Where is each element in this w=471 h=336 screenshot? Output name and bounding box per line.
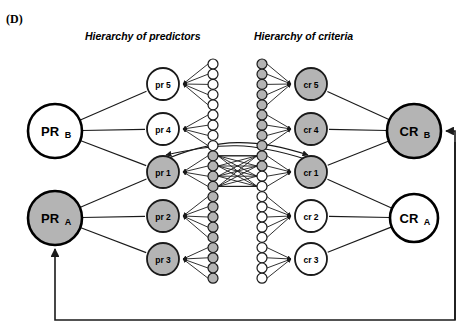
predictor-item-node-10: [208, 151, 218, 161]
edge-item-to-cr2: [267, 207, 291, 216]
figure-panel-d: (D) Hierarchy of predictors Hierarchy of…: [0, 0, 471, 336]
predictor-item-node-7: [208, 120, 218, 130]
edge-item-to-cr2: [267, 216, 291, 227]
edge-item-to-pr3: [183, 259, 208, 268]
facet-node-cr2: cr 2: [295, 200, 327, 232]
edge-item-to-cr3: [267, 259, 291, 278]
edge-item-to-pr2: [183, 207, 208, 216]
edge-PRA-pr2: [82, 216, 145, 217]
construct-node-CR_B-subscript: B: [424, 130, 431, 140]
edge-item-to-cr2: [267, 197, 291, 216]
construct-node-PR_A-label: PR: [41, 211, 60, 226]
edges-criteria-items-to-facets: [267, 64, 291, 278]
construct-node-PR_B: PRB: [28, 104, 82, 158]
edge-item-to-pr2: [183, 216, 208, 237]
construct-node-CR_B: CRB: [387, 104, 441, 158]
predictor-item-node-16: [208, 212, 218, 222]
edge-item-to-pr5: [183, 84, 208, 105]
predictor-item-node-20: [208, 253, 218, 263]
edge-PRA-pr1: [80, 179, 147, 207]
criteria-item-node-13: [257, 181, 267, 191]
predictor-item-node-18: [208, 232, 218, 242]
predictor-item-node-19: [208, 243, 218, 253]
criteria-item-node-16: [257, 212, 267, 222]
edge-CRA-cr1: [327, 179, 392, 208]
predictor-item-node-6: [208, 110, 218, 120]
edge-PRB-pr1: [80, 141, 146, 166]
edge-item-to-pr3: [183, 259, 208, 278]
predictor-item-node-11: [208, 161, 218, 171]
predictor-item-node-21: [208, 263, 218, 273]
predictor-item-node-1: [208, 59, 218, 69]
construct-node-CR_A-subscript: A: [424, 217, 431, 227]
edge-item-to-cr5: [267, 84, 291, 95]
edge-PRB-pr5: [80, 91, 147, 120]
predictor-item-node-12: [208, 171, 218, 181]
facet-node-pr1-label: pr 1: [155, 168, 171, 178]
criteria-item-node-14: [257, 192, 267, 202]
facet-node-cr2-label: cr 2: [303, 212, 318, 222]
edge-item-to-cr3: [267, 259, 291, 268]
criteria-item-node-15: [257, 202, 267, 212]
predictor-item-node-9: [208, 141, 218, 151]
edge-item-to-cr3: [267, 248, 291, 259]
predictor-item-node-22: [208, 273, 218, 283]
predictor-item-node-2: [208, 69, 218, 79]
edges-item-cross-links: [218, 156, 257, 187]
facet-node-pr2: pr 2: [147, 200, 179, 232]
edge-item-to-pr4: [183, 129, 208, 146]
edge-item-to-pr5: [183, 74, 208, 84]
facet-node-pr4-label: pr 4: [155, 125, 171, 135]
facet-node-cr4: cr 4: [295, 113, 327, 145]
criteria-item-node-20: [257, 253, 267, 263]
construct-node-PR_B-label: PR: [41, 124, 60, 139]
facet-node-cr4-label: cr 4: [303, 125, 318, 135]
predictor-item-node-13: [208, 181, 218, 191]
edge-item-to-cr2: [267, 216, 291, 237]
criteria-item-node-21: [257, 263, 267, 273]
feedback-loop-to-CRB: [446, 131, 455, 320]
edge-CRB-cr4: [329, 129, 387, 130]
facet-node-pr1: pr 1: [147, 156, 179, 188]
facet-node-cr3-label: cr 3: [303, 255, 318, 265]
edge-item-to-cr5: [267, 84, 291, 105]
criteria-item-node-4: [257, 90, 267, 100]
edge-item-to-cr5: [267, 74, 291, 84]
edge-item-to-pr1: [183, 156, 208, 172]
edge-item-to-pr2: [183, 216, 208, 227]
construct-node-PR_A: PRA: [28, 191, 82, 245]
facet-node-cr3: cr 3: [295, 243, 327, 275]
facet-node-cr5: cr 5: [295, 68, 327, 100]
facet-node-pr3-label: pr 3: [155, 255, 171, 265]
construct-node-CR_B-label: CR: [400, 124, 419, 139]
construct-node-CR_A: CRA: [390, 194, 438, 242]
edge-item-to-cr1: [267, 166, 291, 172]
edge-PRA-pr3: [80, 228, 146, 253]
edge-item-to-cr1: [267, 156, 291, 172]
predictor-item-node-4: [208, 90, 218, 100]
edge-CRA-cr2: [329, 216, 390, 217]
construct-node-PR_A-subscript: A: [65, 217, 72, 227]
criteria-item-node-3: [257, 79, 267, 89]
criteria-item-node-8: [257, 130, 267, 140]
predictor-item-node-15: [208, 202, 218, 212]
facet-node-pr4: pr 4: [147, 113, 179, 145]
edge-CRB-cr5: [327, 91, 389, 119]
facet-node-pr2-label: pr 2: [155, 212, 171, 222]
predictor-item-node-3: [208, 79, 218, 89]
predictor-item-node-14: [208, 192, 218, 202]
criteria-item-node-19: [257, 243, 267, 253]
facet-node-cr1: cr 1: [295, 156, 327, 188]
edge-CRA-cr3: [328, 227, 392, 252]
edge-item-to-cr3: [267, 258, 291, 259]
criteria-item-node-6: [257, 110, 267, 120]
edge-item-to-pr1: [183, 166, 208, 172]
edge-item-to-cr2: [267, 216, 291, 217]
edge-item-to-cr4: [267, 129, 291, 135]
edge-item-to-cr4: [267, 129, 291, 146]
edges-predictor-items-to-facets: [183, 64, 208, 278]
predictor-item-node-8: [208, 130, 218, 140]
edge-item-to-cr5: [267, 64, 291, 84]
edge-PRB-pr4: [82, 129, 145, 130]
facet-node-pr5-label: pr 5: [155, 80, 171, 90]
